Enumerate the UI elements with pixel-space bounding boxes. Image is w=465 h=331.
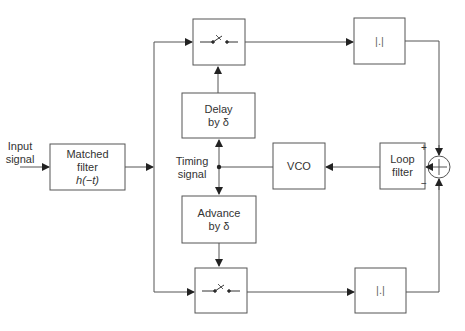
matched-filter-label: Matched filter h(−t) bbox=[50, 144, 125, 190]
advance-line1: Advance bbox=[198, 207, 241, 220]
mf-line1: Matched bbox=[66, 148, 108, 161]
switch-icon-bottom bbox=[202, 284, 240, 292]
summer-minus-sign: − bbox=[419, 177, 429, 190]
lf-line1: Loop bbox=[390, 153, 414, 166]
delay-label: Delay by δ bbox=[182, 93, 255, 138]
abs-top-text: |.| bbox=[375, 35, 384, 48]
advance-line2: by δ bbox=[209, 220, 230, 233]
timing-signal-label: Timing signal bbox=[170, 155, 214, 181]
summer-plus-sign: + bbox=[419, 141, 429, 154]
vco-label: VCO bbox=[273, 143, 325, 189]
abs-top-to-summer bbox=[405, 41, 439, 155]
mf-line2: filter bbox=[77, 161, 98, 174]
input-signal-label: Input signal bbox=[2, 140, 38, 166]
mf-line3: h(−t) bbox=[76, 174, 99, 187]
vco-text: VCO bbox=[287, 160, 311, 173]
abs-bottom-label: |.| bbox=[355, 268, 406, 313]
timing-line2: signal bbox=[170, 168, 214, 181]
delay-line2: by δ bbox=[208, 116, 229, 129]
input-label-line2: signal bbox=[2, 153, 38, 166]
abs-bottom-text: |.| bbox=[376, 284, 385, 297]
abs-bottom-to-summer bbox=[406, 179, 439, 292]
advance-label: Advance by δ bbox=[182, 196, 256, 243]
delay-line1: Delay bbox=[204, 103, 232, 116]
switch-icon-top bbox=[200, 35, 238, 43]
lf-line2: filter bbox=[392, 166, 413, 179]
input-label-line1: Input bbox=[2, 140, 38, 153]
timing-line1: Timing bbox=[170, 155, 214, 168]
timing-node-dot bbox=[217, 165, 221, 169]
abs-top-label: |.| bbox=[354, 18, 405, 64]
